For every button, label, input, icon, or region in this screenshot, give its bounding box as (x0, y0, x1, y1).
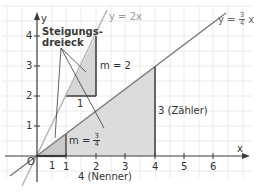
slope-triangle-diagram: y x O 1 2 3 4 5 6 1 2 3 4 y = 2x y = 34 … (0, 0, 259, 193)
big-rise-label: 3 (Zähler) (158, 106, 208, 116)
x-tick-6: 6 (210, 162, 216, 172)
m2-label: m = 2 (100, 61, 131, 71)
y-axis-arrow (34, 12, 40, 20)
m2-run-label: 1 (77, 99, 83, 109)
y-tick-4: 4 (26, 31, 32, 41)
y-axis-label: y (41, 14, 47, 24)
diagram-canvas (0, 0, 259, 193)
small-run-label: 1 (49, 161, 55, 171)
y-tick-1: 1 (26, 121, 32, 131)
steigungsdreieck-label-line1: Steigungs- (42, 27, 103, 37)
y-tick-3: 3 (26, 61, 32, 71)
big-run-label: 4 (Nenner) (78, 172, 132, 182)
label-y-34x: y = 34 x (218, 12, 254, 27)
y-tick-2: 2 (26, 91, 32, 101)
x-axis-label: x (237, 144, 243, 154)
x-axis-arrow (242, 153, 250, 159)
x-tick-5: 5 (181, 162, 187, 172)
steigungsdreieck-label-line2: dreieck (42, 38, 84, 48)
label-y-2x: y = 2x (109, 12, 142, 22)
origin-label: O (27, 157, 35, 167)
x-tick-1: 1 (63, 162, 69, 172)
m34-label: m = 34 (69, 133, 100, 148)
x-tick-4: 4 (152, 162, 158, 172)
